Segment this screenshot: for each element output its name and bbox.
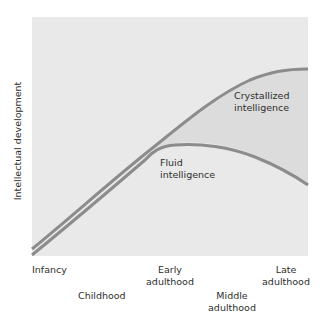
y-axis-label: Intellectual development [12,82,23,201]
x-label-early-adulthood: Early adulthood [142,264,198,288]
x-label-infancy: Infancy [32,264,67,276]
crystallized-label: Crystallized intelligence [234,90,289,114]
fluid-label: Fluid intelligence [160,157,215,181]
x-label-middle-adulthood: Middle adulthood [204,290,260,314]
x-label-late-adulthood: Late adulthood [258,264,314,288]
x-label-childhood: Childhood [78,290,126,302]
